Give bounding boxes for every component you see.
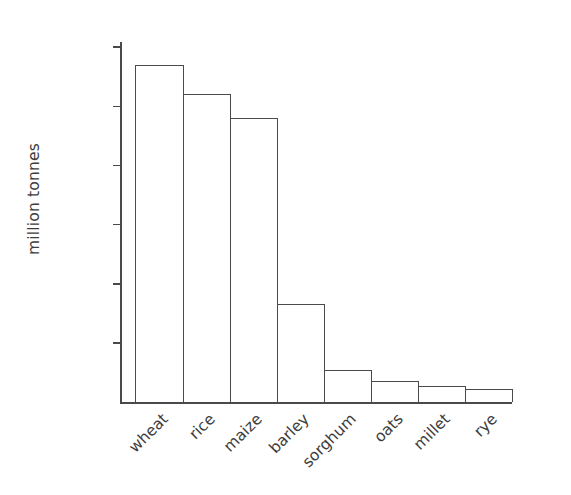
y-axis-title: million tonnes bbox=[25, 119, 43, 279]
x-axis-tick-label-text: rye bbox=[470, 410, 500, 440]
bar-rice[interactable] bbox=[182, 94, 231, 402]
bar-millet[interactable] bbox=[417, 386, 466, 402]
bar-wheat[interactable] bbox=[135, 65, 184, 403]
x-axis-tick-label-group: wheatricemaizebarleysorghumoatsmilletrye bbox=[120, 404, 550, 495]
bars-layer bbox=[135, 36, 511, 403]
x-axis-tick-label-text: maize bbox=[220, 410, 266, 456]
y-axis-tick-400 bbox=[113, 165, 120, 167]
bar-rye[interactable] bbox=[464, 389, 513, 402]
y-axis-line bbox=[120, 42, 122, 404]
y-axis-tick-200 bbox=[113, 283, 120, 285]
y-axis-tick-300 bbox=[113, 224, 120, 226]
x-axis-tick-label-text: millet bbox=[410, 410, 454, 454]
plot-area bbox=[120, 36, 518, 404]
y-axis-tick-600 bbox=[113, 46, 120, 48]
x-axis-tick-label-text: oats bbox=[370, 410, 406, 446]
bar-sorghum[interactable] bbox=[323, 370, 372, 403]
bar-maize[interactable] bbox=[229, 118, 278, 402]
bar-barley[interactable] bbox=[276, 304, 325, 402]
x-axis-tick-label-text: rice bbox=[185, 410, 218, 443]
y-axis-tick-100 bbox=[113, 342, 120, 344]
bar-chart-figure: million tonnes 100200300400500600 wheatr… bbox=[0, 0, 571, 495]
y-axis-tick-500 bbox=[113, 106, 120, 108]
bar-oats[interactable] bbox=[370, 381, 419, 402]
x-axis-tick-label-text: wheat bbox=[125, 410, 171, 456]
